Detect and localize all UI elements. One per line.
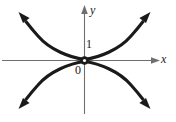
- graph-canvas: [0, 0, 176, 122]
- curve-upper-right-arrow-icon: [139, 12, 150, 23]
- x-axis-arrow-icon: [151, 57, 160, 64]
- curve-upper-right: [85, 12, 151, 60]
- origin-point-marker: [80, 56, 88, 64]
- curve-lower-right: [85, 62, 151, 110]
- curve-lower-left-arrow-icon: [19, 98, 30, 109]
- origin-dot-inner: [83, 59, 86, 62]
- curve-lower-right-arrow-icon: [139, 98, 150, 109]
- curve-upper-left-path: [26, 21, 85, 60]
- origin-label-zero: 0: [75, 64, 81, 76]
- curve-upper-right-path: [85, 21, 144, 60]
- y-axis-label: y: [90, 4, 95, 16]
- math-figure: y x 1 0: [0, 0, 176, 122]
- curve-upper-left-arrow-icon: [19, 12, 30, 23]
- y-axis-arrow-icon: [81, 5, 88, 14]
- y-axis-tick-label-one: 1: [86, 38, 92, 50]
- x-axis-label: x: [161, 53, 166, 65]
- curve-lower-right-path: [85, 62, 144, 101]
- curve-upper-left: [19, 12, 85, 60]
